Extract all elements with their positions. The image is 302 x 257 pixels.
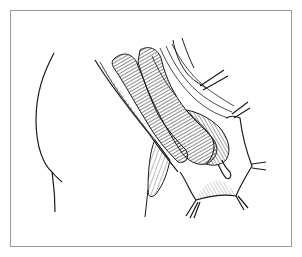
- opening-shading: [196, 180, 236, 200]
- retractor-bottom-right: [236, 196, 248, 210]
- wall-line-lower: [145, 190, 148, 217]
- retractor-right: [252, 162, 266, 170]
- bowel-loops: [112, 48, 231, 179]
- retractor-bottom-left: [186, 200, 200, 218]
- surgical-illustration: [0, 0, 302, 257]
- incision-upper-edge: [173, 40, 206, 88]
- retractor-right-upper: [232, 102, 250, 118]
- body-outline: [36, 53, 62, 212]
